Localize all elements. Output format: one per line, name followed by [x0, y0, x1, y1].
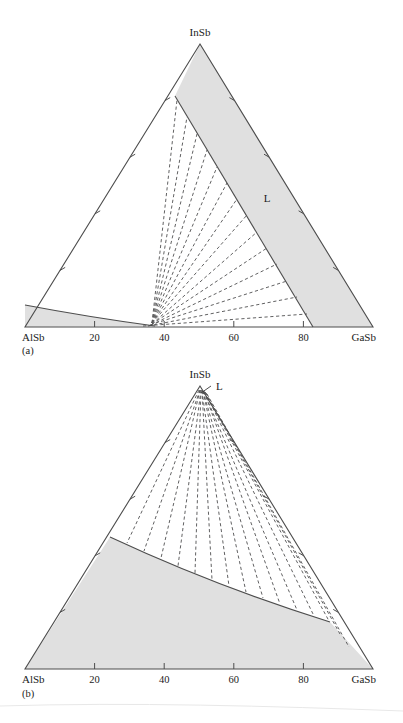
- panel-a-apex-label: InSb: [190, 26, 211, 38]
- page-edge-line: [0, 704, 403, 711]
- tie-line: [152, 248, 267, 324]
- panel-b-tick-label-60: 60: [229, 674, 240, 685]
- panel-b-left-label: AlSb: [22, 673, 45, 685]
- panel-b-phase-label-L: L: [216, 380, 223, 392]
- panel-a-right-label: GaSb: [352, 331, 377, 343]
- panel-b-caption: (b): [22, 688, 35, 700]
- panel-b: InSb AlSb GaSb 20 40 60 80 L (b): [22, 368, 376, 700]
- tie-line: [195, 390, 201, 573]
- panel-a-left-label: AlSb: [22, 331, 45, 343]
- tie-line: [152, 134, 197, 323]
- figure-root: InSb AlSb GaSb 20 40 60 80 L (a): [0, 0, 403, 723]
- tie-line: [203, 391, 263, 598]
- tie-line: [143, 314, 307, 326]
- tie-line: [205, 392, 314, 616]
- tie-line: [152, 150, 207, 323]
- panel-b-apex-label: InSb: [190, 368, 211, 380]
- panel-a-tick-label-40: 40: [159, 332, 170, 343]
- panel-a: InSb AlSb GaSb 20 40 60 80 L (a): [22, 26, 376, 357]
- tie-line: [152, 167, 217, 323]
- panel-b-solid-region: [25, 537, 373, 669]
- panel-a-tick-label-80: 80: [298, 332, 309, 343]
- ternary-diagram-pair: InSb AlSb GaSb 20 40 60 80 L (a): [0, 0, 403, 723]
- tie-line: [151, 264, 277, 325]
- tie-line: [152, 117, 187, 323]
- tie-line: [150, 281, 287, 325]
- panel-a-tick-label-20: 20: [89, 332, 100, 343]
- tie-line: [202, 391, 229, 586]
- tie-line: [202, 390, 212, 580]
- panel-a-liquid-region: [175, 44, 373, 327]
- panel-b-tick-label-80: 80: [298, 674, 309, 685]
- panel-b-right-label: GaSb: [352, 673, 377, 685]
- panel-b-tick-label-40: 40: [159, 674, 170, 685]
- tie-line: [152, 100, 177, 323]
- panel-a-caption: (a): [22, 345, 34, 357]
- tie-line: [161, 390, 200, 558]
- tie-line: [204, 392, 297, 610]
- tie-line: [144, 390, 200, 551]
- panel-a-tick-label-60: 60: [229, 332, 240, 343]
- panel-b-tick-label-20: 20: [89, 674, 100, 685]
- panel-a-phase-label-L: L: [264, 192, 271, 204]
- tie-line: [152, 215, 247, 323]
- tie-line: [127, 390, 199, 543]
